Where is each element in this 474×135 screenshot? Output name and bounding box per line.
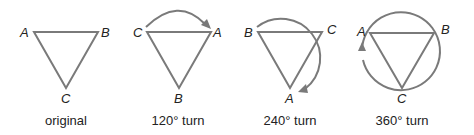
vertex-label-top-left: A (356, 24, 366, 39)
vertex-label-bottom: C (61, 91, 71, 106)
rotation-arc-icon (257, 19, 320, 89)
vertex-label-top-left: B (244, 25, 253, 40)
vertex-label-top-right: B (101, 25, 110, 40)
vertex-label-bottom: A (284, 91, 294, 106)
triangle (147, 32, 211, 88)
triangle (258, 32, 322, 88)
vertex-label-top-right: B (441, 22, 450, 37)
panel-caption: 120° turn (152, 113, 205, 128)
rotation-arc-icon (362, 12, 440, 90)
panel-caption: 360° turn (376, 113, 429, 128)
vertex-label-top-right: C (327, 22, 337, 37)
panel-original: A B C original (19, 25, 110, 128)
vertex-label-top-left: C (133, 25, 143, 40)
arrowhead-icon (358, 42, 366, 51)
vertex-label-bottom: C (397, 91, 407, 106)
rotation-arc-icon (146, 11, 205, 27)
panel-caption: original (45, 113, 87, 128)
panel-caption: 240° turn (264, 113, 317, 128)
triangle-rotation-diagram: A B C original C A B 120° turn B C A 240… (0, 0, 474, 135)
panel-120-turn: C A B 120° turn (133, 11, 222, 128)
arrowhead-icon (298, 84, 308, 93)
triangle (34, 32, 98, 88)
vertex-label-top-right: A (212, 25, 222, 40)
panel-240-turn: B C A 240° turn (244, 19, 337, 128)
triangle (370, 33, 434, 88)
vertex-label-top-left: A (19, 25, 29, 40)
panel-360-turn: A B C 360° turn (356, 12, 450, 128)
vertex-label-bottom: B (174, 91, 183, 106)
